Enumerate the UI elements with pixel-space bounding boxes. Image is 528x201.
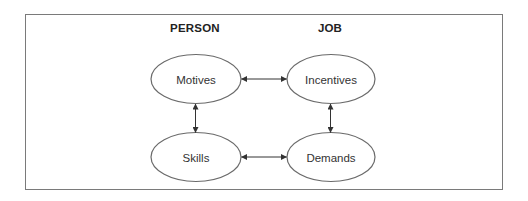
diagram-canvas — [0, 0, 528, 201]
node-label-demands: Demands — [306, 152, 355, 164]
node-label-motives: Motives — [176, 74, 216, 86]
node-label-incentives: Incentives — [305, 74, 357, 86]
node-label-skills: Skills — [183, 152, 210, 164]
